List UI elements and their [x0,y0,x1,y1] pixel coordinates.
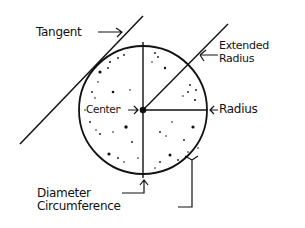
circle-parts-diagram: Tangent Extended Radius Center Radius Di… [0,0,305,228]
circumference-arrow-icon [178,156,198,207]
label-arrows [98,28,218,207]
extended-radius-label-line2: Radius [219,53,254,64]
tangent-label: Tangent [36,26,82,38]
radius-arrow-icon [210,106,218,114]
diameter-arrow-icon [122,180,148,193]
extended-radius-label-line1: Extended [219,40,269,51]
tangent-arrow-icon [98,28,122,37]
circumference-label: Circumference [37,200,121,212]
center-label: Center [86,104,120,115]
center-arrow-icon [128,106,138,114]
diameter-label: Diameter [37,187,91,199]
extended-radius-line [143,24,228,110]
radius-label: Radius [219,103,257,115]
center-dot [140,107,147,114]
